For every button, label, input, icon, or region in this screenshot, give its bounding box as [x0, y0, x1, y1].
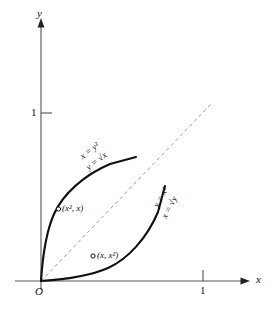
lower-curve-path	[41, 186, 165, 281]
origin-label: O	[35, 286, 43, 297]
upper-curve-path	[41, 157, 136, 281]
y-axis-label: y	[37, 8, 42, 19]
y-tick-label-1: 1	[31, 107, 37, 118]
x-axis-label: x	[256, 274, 261, 285]
upper-point-label: (x², x)	[62, 204, 83, 213]
point-marker-lower	[91, 254, 95, 258]
lower-point-label: (x, x²)	[97, 251, 118, 260]
x-tick-label-1: 1	[200, 285, 206, 296]
identity-line-dashed	[41, 103, 212, 281]
figure-canvas: y x O 1 1 x = y² y = √x y = x² x = √y (x…	[0, 0, 274, 314]
point-marker-upper	[56, 207, 60, 211]
